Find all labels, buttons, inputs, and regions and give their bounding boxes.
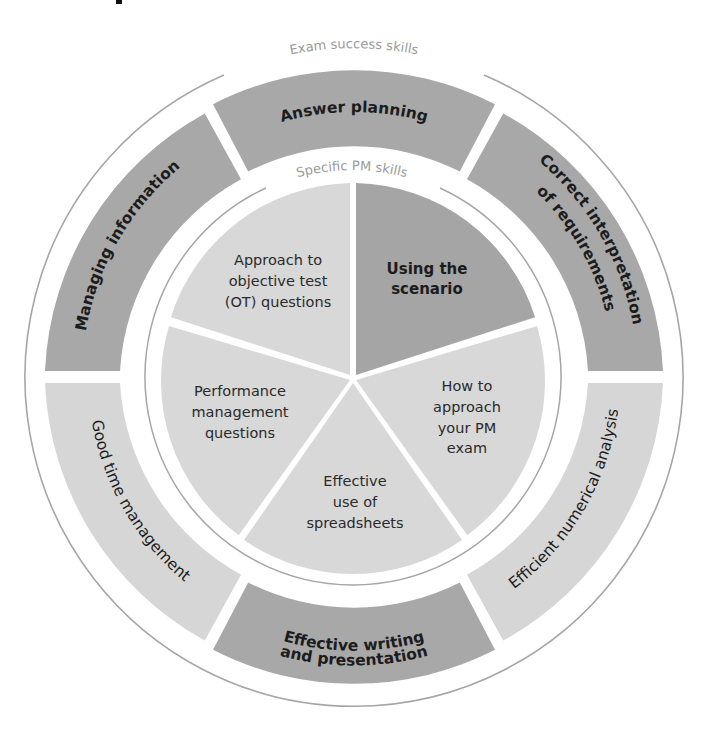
scenario-line1: Using the	[387, 260, 468, 278]
approach-line3: your PM	[438, 420, 496, 436]
wheel-svg: Exam success skills Specific PM skills A…	[0, 0, 705, 734]
scenario-line2: scenario	[391, 280, 463, 298]
spreadsheets-line2: use of	[333, 494, 378, 510]
label-performance-management: Performance management questions	[191, 383, 288, 441]
spreadsheets-line1: Effective	[323, 473, 386, 489]
performance-line2: management	[191, 404, 288, 420]
segment-correct-interpretation	[467, 113, 663, 371]
objective-line1: Approach to	[234, 252, 322, 268]
approach-line1: How to	[442, 378, 493, 394]
segment-answer-planning	[213, 70, 495, 171]
approach-line4: exam	[447, 440, 487, 456]
performance-line1: Performance	[194, 383, 286, 399]
segment-managing-information	[45, 113, 241, 371]
objective-line3: (OT) questions	[225, 294, 331, 310]
cropped-title-fragment	[116, 0, 122, 4]
spreadsheets-line3: spreadsheets	[306, 515, 403, 531]
outer-ring-label: Exam success skills	[288, 36, 420, 57]
objective-line2: objective test	[229, 273, 328, 289]
label-objective-test: Approach to objective test (OT) question…	[225, 252, 331, 310]
skills-wheel-diagram: Exam success skills Specific PM skills A…	[0, 0, 705, 734]
approach-line2: approach	[433, 399, 501, 415]
performance-line3: questions	[205, 425, 275, 441]
inner-ring-label: Specific PM skills	[295, 158, 410, 180]
